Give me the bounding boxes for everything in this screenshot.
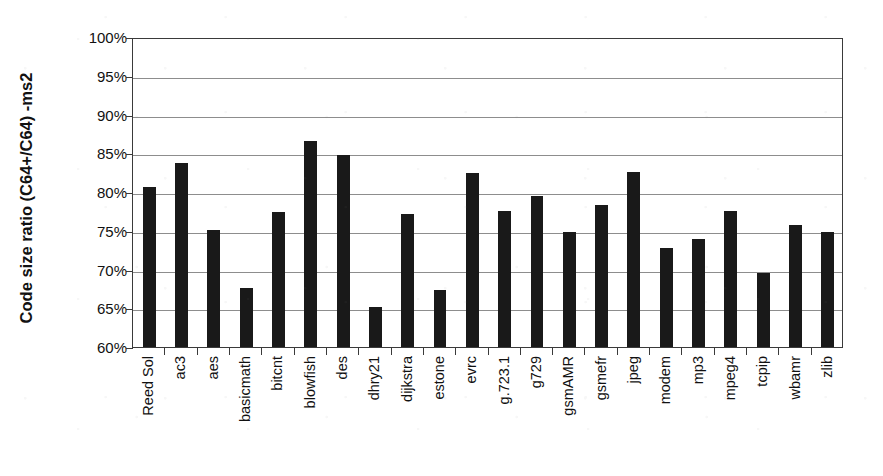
gridline <box>133 194 842 195</box>
x-axis-tick-mark <box>358 348 359 355</box>
x-axis-tick-mark <box>617 348 618 355</box>
x-axis-tick-mark <box>391 348 392 355</box>
bar <box>627 172 640 347</box>
bar <box>821 232 834 347</box>
x-axis-tick-mark <box>423 348 424 355</box>
x-axis-category-label: ac3 <box>173 356 188 381</box>
x-axis-tick-mark <box>520 348 521 355</box>
y-axis-tick-label: 100% <box>75 30 127 45</box>
y-axis-tick-label: 75% <box>75 224 127 239</box>
x-axis-tick-mark <box>488 348 489 355</box>
y-axis-tick-label: 60% <box>75 340 127 355</box>
x-axis-tick-mark <box>552 348 553 355</box>
x-axis-category-label: Reed Sol <box>141 356 156 418</box>
x-axis-tick-mark <box>164 348 165 355</box>
bar <box>143 187 156 347</box>
bar <box>434 290 447 347</box>
x-axis-tick-mark <box>261 348 262 355</box>
x-axis-category-label: bitcnt <box>270 356 285 393</box>
x-axis-label-slot: jpeg <box>617 356 649 474</box>
x-axis-label-slot: g729 <box>520 356 552 474</box>
y-axis-title: Code size ratio (C64+/C64) -ms2 <box>14 43 38 353</box>
y-axis-tick-label: 70% <box>75 263 127 278</box>
x-axis-category-label: evrc <box>464 356 479 385</box>
x-axis-label-slot: ac3 <box>164 356 196 474</box>
x-axis-label-slot: tcpip <box>746 356 778 474</box>
x-axis-tick-mark <box>649 348 650 355</box>
bar <box>595 205 608 347</box>
y-axis-tick-label: 90% <box>75 108 127 123</box>
x-axis-category-label: des <box>335 356 350 381</box>
x-axis-category-label: gsmefr <box>593 356 608 402</box>
bar <box>789 225 802 347</box>
x-axis-label-slot: gsmefr <box>584 356 616 474</box>
plot-area <box>132 38 843 348</box>
x-axis-label-slot: basicmath <box>229 356 261 474</box>
x-axis-tick-mark <box>746 348 747 355</box>
x-axis-category-label: g729 <box>529 356 544 390</box>
x-axis-tick-mark <box>229 348 230 355</box>
x-axis-category-labels: Reed Solac3aesbasicmathbitcntblowfishdes… <box>132 356 843 474</box>
bar <box>757 273 770 347</box>
x-axis-label-slot: estone <box>423 356 455 474</box>
y-axis-tick-label: 85% <box>75 146 127 161</box>
bar <box>724 211 737 347</box>
bar <box>498 211 511 347</box>
bar <box>240 288 253 347</box>
y-axis-tick-label: 80% <box>75 185 127 200</box>
x-axis-label-slot: zlib <box>811 356 843 474</box>
x-axis-category-label: dijkstra <box>399 356 414 404</box>
x-axis-label-slot: modem <box>649 356 681 474</box>
bar <box>401 214 414 347</box>
x-axis-category-label: jpeg <box>626 356 641 385</box>
x-axis-category-label: aes <box>206 356 221 381</box>
x-axis-label-slot: evrc <box>455 356 487 474</box>
x-axis-category-label: basicmath <box>238 356 253 424</box>
x-axis-label-slot: gsmAMR <box>552 356 584 474</box>
x-axis-category-label: blowfish <box>302 356 317 410</box>
bar <box>207 230 220 347</box>
x-axis-category-label: dhry21 <box>367 356 382 402</box>
bar <box>692 239 705 348</box>
x-axis-tick-mark <box>714 348 715 355</box>
bar-chart: Code size ratio (C64+/C64) -ms2 100%95%9… <box>0 0 883 476</box>
bar <box>337 155 350 347</box>
gridline <box>133 155 842 156</box>
x-axis-label-slot: blowfish <box>294 356 326 474</box>
x-axis-tick-mark <box>681 348 682 355</box>
x-axis-category-label: mp3 <box>690 356 705 386</box>
bar <box>175 163 188 347</box>
x-axis-category-label: wbamr <box>787 356 802 402</box>
x-axis-label-slot: Reed Sol <box>132 356 164 474</box>
bar <box>660 248 673 347</box>
x-axis-category-label: tcpip <box>755 356 770 389</box>
bar <box>369 307 382 347</box>
y-axis-tick-label: 95% <box>75 69 127 84</box>
x-axis-category-label: g.723.1 <box>496 356 511 406</box>
x-axis-category-label: modem <box>658 356 673 406</box>
bar <box>272 212 285 347</box>
x-axis-tick-mark <box>455 348 456 355</box>
bar <box>304 141 317 347</box>
gridline <box>133 78 842 79</box>
x-axis-tick-marks <box>132 348 843 355</box>
x-axis-tick-mark <box>584 348 585 355</box>
y-axis-tick-label: 65% <box>75 301 127 316</box>
x-axis-tick-mark <box>811 348 812 355</box>
x-axis-label-slot: dijkstra <box>391 356 423 474</box>
x-axis-category-label: estone <box>432 356 447 402</box>
x-axis-label-slot: aes <box>197 356 229 474</box>
x-axis-category-label: zlib <box>820 356 835 380</box>
bar <box>531 196 544 347</box>
x-axis-label-slot: mp3 <box>681 356 713 474</box>
x-axis-label-slot: mpeg4 <box>714 356 746 474</box>
x-axis-label-slot: bitcnt <box>261 356 293 474</box>
y-axis-tick-labels: 100%95%90%85%80%75%70%65%60% <box>73 0 127 476</box>
bar <box>563 232 576 347</box>
x-axis-tick-mark <box>294 348 295 355</box>
x-axis-label-slot: dhry21 <box>358 356 390 474</box>
x-axis-label-slot: des <box>326 356 358 474</box>
gridline <box>133 117 842 118</box>
x-axis-tick-mark <box>326 348 327 355</box>
x-axis-tick-mark <box>778 348 779 355</box>
